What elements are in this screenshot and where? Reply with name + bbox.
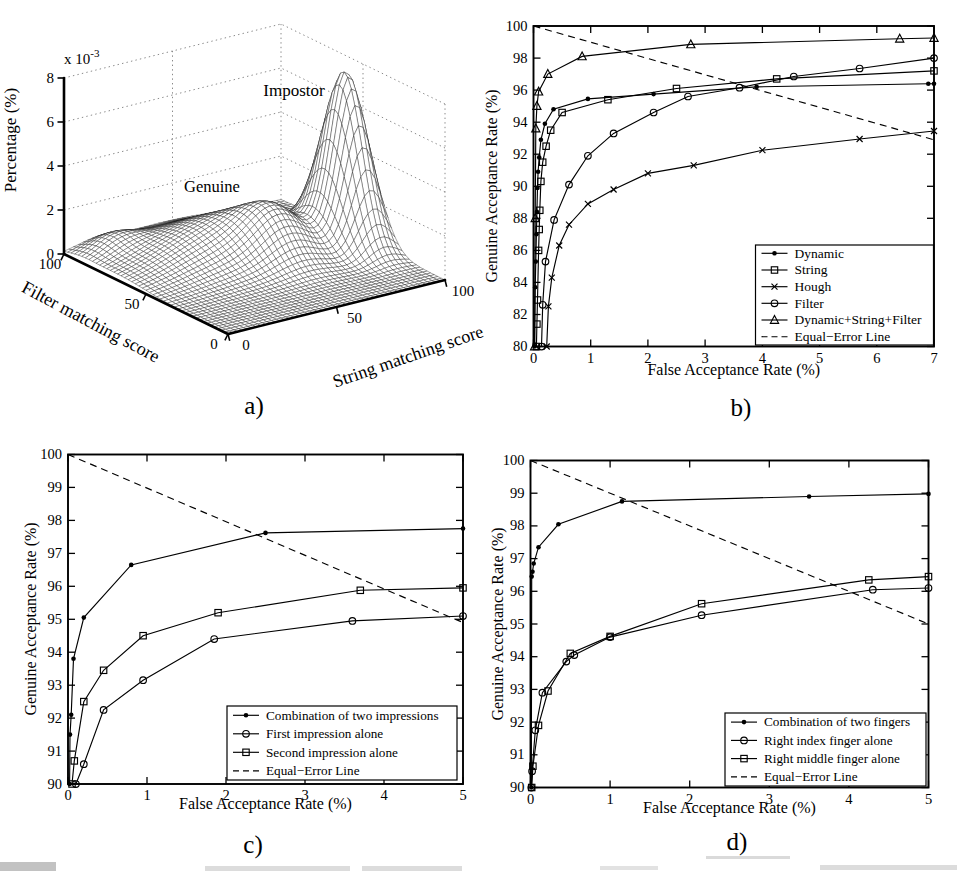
legend-label: Equal−Error Line [764,769,858,784]
x-tick-label: 4 [845,791,853,807]
legend-label: Dynamic+String+Filter [795,312,922,327]
y-tick-label: 98 [513,50,528,66]
y-axis-label: Genuine Acceptance Rate (%) [483,89,501,282]
y-tick-label: 96 [510,583,525,599]
y-tick-label: 94 [48,644,63,660]
legend-label: String [795,262,828,277]
y-tick-label: 90 [48,776,63,792]
x-tick-label: 0 [530,350,537,366]
y-tick-label: 84 [513,274,528,290]
z-tick-label: 8 [47,70,55,86]
filter-tick-label: 0 [210,336,218,352]
string-tick-label: 100 [452,283,475,299]
y-tick-label: 93 [510,681,525,697]
x-tick-label: 1 [606,791,613,807]
y-tick-label: 95 [48,611,63,627]
z-tick-label: 4 [47,158,55,174]
page-crop-artifact [600,866,658,870]
x-tick-label: 5 [925,791,932,807]
y-axis-label: Genuine Acceptance Rate (%) [22,522,40,715]
y-tick-label: 90 [513,178,528,194]
y-tick-label: 98 [510,517,525,533]
legend-label: Equal−Error Line [795,329,891,344]
annotations: GenuineImpostor [184,81,325,196]
legend-label: Right middle finger alone [764,751,900,766]
annotation-genuine: Genuine [184,177,240,196]
x-axis-label: False Acceptance Rate (%) [643,799,816,817]
string-tick-label: 0 [242,337,250,353]
series-equal-error-line [68,455,463,623]
subcaption-c: c) [243,831,262,859]
filter-tick-label: 100 [39,256,62,272]
legend-label: Filter [795,296,825,311]
figure-4up: 02468100500050100Filter matching scoreSt… [0,0,957,873]
roc-plot-b: 0123456780828486889092949698100False Acc… [478,0,957,440]
legend: DynamicStringHoughFilterDynamic+String+F… [756,245,934,345]
y-tick-label: 90 [510,779,525,795]
y-tick-label: 99 [510,485,525,501]
z-scale-label: x 10-3 [64,47,100,67]
y-tick-label: 100 [503,452,525,468]
y-tick-label: 99 [48,479,63,495]
page-crop-artifact [820,865,957,870]
z-tick-label: 2 [47,202,55,218]
x-tick-label: 1 [143,787,150,803]
z-tick-label: 6 [47,114,55,130]
y-tick-label: 91 [48,743,63,759]
x-axis-label: False Acceptance Rate (%) [647,361,820,379]
roc-plot-d: 01234590919293949596979899100False Accep… [478,420,957,865]
y-tick-label: 100 [506,18,528,34]
page-crop-artifact [362,866,462,871]
x-tick-label: 1 [587,350,594,366]
surface-plot-a: 02468100500050100Filter matching scoreSt… [0,0,500,440]
y-tick-label: 88 [513,210,528,226]
legend-label: Hough [795,279,832,294]
subcaption-d: d) [727,828,748,856]
z-axis-label: Percentage (%) [1,88,20,192]
x-tick-label: 0 [527,791,534,807]
y-tick-label: 92 [48,710,63,726]
y-tick-label: 97 [510,550,525,566]
y-tick-label: 94 [510,648,525,664]
legend-label: Combination of two impressions [266,708,439,723]
subcaption-a: a) [244,392,263,420]
y-tick-label: 92 [510,714,525,730]
y-tick-label: 97 [48,545,63,561]
legend-label: First impression alone [266,726,383,741]
x-tick-label: 7 [930,350,937,366]
legend-label: Dynamic [795,246,845,261]
legend-label: Combination of two fingers [764,714,910,729]
y-tick-label: 100 [40,446,62,462]
page-crop-artifact [0,862,56,871]
y-tick-label: 86 [513,242,528,258]
page-crop-artifact [205,866,350,871]
string-tick-label: 50 [347,310,362,326]
y-axis-label: Genuine Acceptance Rate (%) [489,527,507,720]
x-tick-label: 0 [64,787,71,803]
roc-plot-c: 01234590919293949596979899100False Accep… [0,420,478,865]
y-tick-label: 95 [510,616,525,632]
legend-label: Equal−Error Line [266,763,360,778]
y-tick-label: 93 [48,677,63,693]
y-tick-label: 96 [513,82,528,98]
string-axis-label: String matching score [330,321,486,391]
legend-label: Right index finger alone [764,733,893,748]
y-tick-label: 92 [513,146,528,162]
y-tick-label: 96 [48,578,63,594]
annotation-impostor: Impostor [263,81,325,100]
x-tick-label: 4 [380,787,388,803]
y-tick-label: 82 [513,306,528,322]
legend-label: Second impression alone [266,745,398,760]
y-tick-label: 80 [513,338,528,354]
x-tick-label: 5 [459,787,466,803]
y-tick-label: 91 [510,746,525,762]
page-crop-artifact [706,856,790,859]
legend: Combination of two fingersRight index fi… [725,713,926,786]
legend: Combination of two impressionsFirst impr… [227,706,457,780]
subcaption-b: b) [731,394,752,422]
y-tick-label: 94 [513,114,528,130]
x-axis-label: False Acceptance Rate (%) [179,795,352,813]
x-tick-label: 6 [873,350,880,366]
filter-tick-label: 50 [125,296,140,312]
y-tick-label: 98 [48,512,63,528]
